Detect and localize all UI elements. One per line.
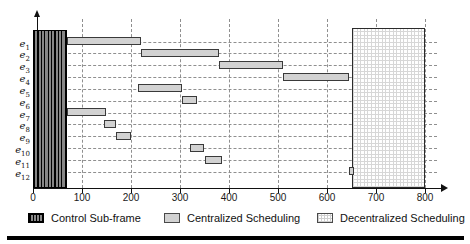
schedule-plot-area: e1e2e3e4e5e6e7e8e9e10e11e120100200300400… xyxy=(0,0,470,244)
centralized-swatch-icon xyxy=(164,213,180,223)
gridline-x-600 xyxy=(327,19,328,188)
centralized-bar-e2 xyxy=(141,49,219,57)
gridline-x-400 xyxy=(229,19,230,188)
legend-label-centralized: Centralized Scheduling xyxy=(187,212,300,224)
legend-label-decentralized: Decentralized Scheduling xyxy=(340,212,465,224)
control-subframe-swatch-icon xyxy=(28,213,44,223)
x-tick-label-100: 100 xyxy=(65,192,99,203)
legend: Control Sub-frame Centralized Scheduling… xyxy=(0,211,470,227)
y-axis-arrow-icon xyxy=(34,10,40,17)
row-label-e12: e12 xyxy=(2,169,30,183)
centralized-bar-e10 xyxy=(190,144,205,152)
centralized-bar-e12 xyxy=(349,167,354,175)
gridline-x-300 xyxy=(180,19,181,188)
figure-scheduling-chart: e1e2e3e4e5e6e7e8e9e10e11e120100200300400… xyxy=(0,0,470,244)
x-tick-label-400: 400 xyxy=(212,192,246,203)
legend-label-control-subframe: Control Sub-frame xyxy=(51,212,141,224)
gridline-x-800 xyxy=(425,19,426,188)
centralized-bar-e9 xyxy=(116,132,131,140)
centralized-bar-e3 xyxy=(219,61,283,69)
legend-item-decentralized: Decentralized Scheduling xyxy=(317,211,465,225)
x-tick-label-600: 600 xyxy=(310,192,344,203)
x-axis-line xyxy=(33,188,443,189)
x-tick-label-800: 800 xyxy=(408,192,442,203)
x-axis-arrow-icon xyxy=(441,184,448,192)
centralized-bar-e7 xyxy=(67,108,106,116)
legend-item-control-subframe: Control Sub-frame xyxy=(28,211,141,225)
x-tick-label-500: 500 xyxy=(261,192,295,203)
decentralized-scheduling-block xyxy=(352,28,426,188)
centralized-bar-e6 xyxy=(182,96,197,104)
centralized-bar-e11 xyxy=(205,156,222,164)
centralized-bar-e5 xyxy=(138,84,182,92)
control-subframe-block xyxy=(33,30,67,188)
decentralized-swatch-icon xyxy=(317,213,333,223)
x-tick-label-700: 700 xyxy=(359,192,393,203)
gridline-x-500 xyxy=(278,19,279,188)
x-tick-label-0: 0 xyxy=(16,192,50,203)
centralized-bar-e4 xyxy=(283,73,349,81)
centralized-bar-e8 xyxy=(104,120,116,128)
centralized-bar-e1 xyxy=(67,37,141,45)
legend-item-centralized: Centralized Scheduling xyxy=(164,211,300,225)
x-tick-label-300: 300 xyxy=(163,192,197,203)
bottom-rule xyxy=(7,236,464,240)
x-tick-label-200: 200 xyxy=(114,192,148,203)
